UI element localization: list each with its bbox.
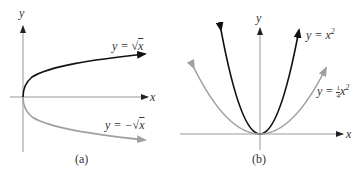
label-neg-sqrt-x: y = −√x bbox=[105, 119, 144, 131]
label-sqrt-x-radicand: x bbox=[138, 39, 143, 53]
panel-b-caption: (b) bbox=[252, 153, 266, 165]
figure-canvas bbox=[0, 0, 357, 175]
label-quarter-exp: 2 bbox=[345, 83, 349, 92]
label-x-squared-exp: 2 bbox=[331, 27, 335, 36]
label-neg-sqrt-x-prefix: y = bbox=[105, 118, 124, 132]
label-x-squared-prefix: y = bbox=[306, 28, 325, 42]
panel-b-x-axis-label: x bbox=[346, 128, 351, 140]
panel-a-x-axis-label: x bbox=[150, 91, 155, 103]
label-neg-sqrt-x-sign: − bbox=[124, 118, 132, 132]
panel-a-y-axis-label: y bbox=[19, 7, 24, 19]
label-quarter-x-squared: y = 14x2 bbox=[317, 84, 349, 100]
label-x-squared: y = x2 bbox=[306, 28, 335, 41]
label-sqrt-x-prefix: y = bbox=[112, 39, 131, 53]
panel-a-caption: (a) bbox=[75, 153, 88, 165]
label-neg-sqrt-x-radicand: x bbox=[139, 118, 144, 132]
label-quarter-prefix: y = bbox=[317, 84, 336, 98]
panel-b-y-axis-label: y bbox=[256, 12, 261, 24]
curve-sqrt-x bbox=[23, 54, 145, 97]
label-sqrt-x: y = √x bbox=[112, 40, 143, 52]
